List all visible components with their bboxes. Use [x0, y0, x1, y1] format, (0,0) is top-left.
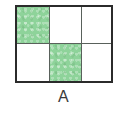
- grid-cell-r1c2: [82, 44, 111, 81]
- grid-cell-r0c1: [50, 7, 82, 44]
- grid-cell-r1c1: [50, 44, 82, 81]
- grid-cell-r1c0: [17, 44, 50, 81]
- grid-cell-r0c0: [17, 7, 50, 44]
- figure-a: A: [0, 0, 127, 113]
- grid-cell-r0c2: [82, 7, 111, 44]
- grid-rectangle: [15, 5, 113, 83]
- figure-label: A: [0, 88, 127, 106]
- grid-cells: [17, 7, 111, 81]
